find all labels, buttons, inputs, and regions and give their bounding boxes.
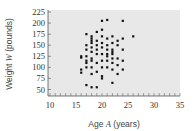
data-point — [101, 60, 103, 62]
data-point — [101, 29, 103, 31]
data-point — [132, 35, 134, 37]
x-tick-label: 20 — [98, 100, 107, 110]
x-tick-label: 10 — [46, 100, 55, 110]
y-tick-label: 125 — [32, 51, 45, 61]
scatter-chart: 5075100125150175200225101520253035 Age A… — [0, 0, 195, 131]
data-point — [106, 60, 108, 62]
data-point — [91, 86, 93, 88]
data-point — [85, 55, 87, 57]
data-point — [106, 44, 108, 46]
x-tick-label: 35 — [176, 100, 185, 110]
y-tick-label: 50 — [37, 85, 46, 95]
data-point — [101, 77, 103, 79]
data-point — [111, 62, 113, 64]
data-point — [91, 51, 93, 53]
data-point — [117, 44, 119, 46]
data-point — [91, 40, 93, 42]
data-point — [80, 72, 82, 74]
data-point — [101, 75, 103, 77]
y-tick-label: 150 — [32, 40, 45, 50]
y-tick-label: 100 — [32, 62, 45, 72]
data-point — [91, 60, 93, 62]
x-tick-label: 25 — [124, 100, 133, 110]
data-point — [101, 20, 103, 22]
x-axis-title: Age A (years) — [88, 119, 140, 129]
data-point — [91, 46, 93, 48]
data-point — [122, 20, 124, 22]
data-point — [111, 49, 113, 51]
data-point — [122, 37, 124, 39]
data-point — [111, 35, 113, 37]
data-point — [117, 73, 119, 75]
data-point — [85, 60, 87, 62]
data-point — [117, 40, 119, 42]
data-point — [85, 62, 87, 64]
plot-area — [48, 10, 180, 96]
data-point — [91, 73, 93, 75]
data-point — [117, 57, 119, 59]
y-tick-label: 175 — [32, 29, 45, 39]
data-point — [106, 66, 108, 68]
data-point — [91, 37, 93, 39]
data-point — [101, 42, 103, 44]
data-point — [85, 66, 87, 68]
data-point — [101, 66, 103, 68]
data-point — [122, 68, 124, 70]
data-point — [85, 44, 87, 46]
data-point — [96, 71, 98, 73]
y-axis-title: Weight W (pounds) — [4, 18, 14, 90]
data-point — [117, 64, 119, 66]
data-point — [106, 53, 108, 55]
data-point — [111, 51, 113, 53]
data-point — [96, 40, 98, 42]
data-point — [80, 68, 82, 70]
x-tick-label: 15 — [72, 100, 81, 110]
data-point — [111, 57, 113, 59]
data-point — [106, 49, 108, 51]
data-point — [91, 57, 93, 59]
y-tick-label: 200 — [32, 18, 45, 28]
data-point — [111, 53, 113, 55]
data-point — [101, 46, 103, 48]
data-point — [101, 35, 103, 37]
data-point — [106, 19, 108, 21]
data-point — [80, 57, 82, 59]
data-point — [122, 49, 124, 51]
y-tick-label: 75 — [37, 73, 46, 83]
data-point — [85, 49, 87, 51]
data-point — [91, 35, 93, 37]
data-point — [96, 31, 98, 33]
data-point — [91, 42, 93, 44]
data-point — [101, 53, 103, 55]
data-point — [96, 44, 98, 46]
x-tick-label: 30 — [150, 100, 159, 110]
data-point — [96, 62, 98, 64]
data-point — [85, 33, 87, 35]
data-point — [122, 60, 124, 62]
data-point — [106, 37, 108, 39]
y-tick-label: 225 — [32, 7, 45, 17]
data-point — [111, 42, 113, 44]
data-point — [106, 55, 108, 57]
data-point — [85, 84, 87, 86]
data-point — [96, 49, 98, 51]
data-point — [111, 82, 113, 84]
data-point — [96, 86, 98, 88]
data-point — [91, 66, 93, 68]
data-point — [111, 68, 113, 70]
data-point — [96, 53, 98, 55]
